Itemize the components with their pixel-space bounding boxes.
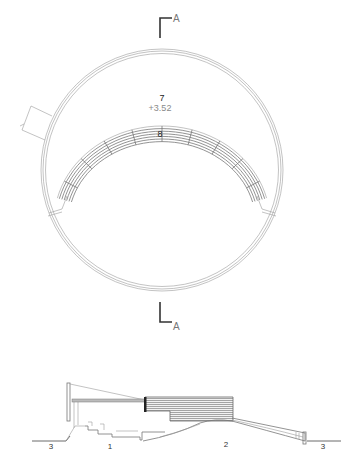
section-marker-bottom: A bbox=[160, 302, 180, 332]
zone-label-3-left: 3 bbox=[49, 442, 54, 451]
canopy-beam bbox=[72, 399, 145, 402]
space-elevation-7: +3.52 bbox=[149, 103, 172, 113]
seating-tier-line bbox=[67, 136, 258, 200]
section-view: 3 1 2 3 bbox=[32, 383, 341, 451]
space-label-8: 8 bbox=[157, 129, 162, 139]
zone-label-2: 2 bbox=[224, 440, 229, 449]
stepped-seating-section bbox=[85, 426, 165, 440]
zone-label-1: 1 bbox=[108, 442, 113, 451]
section-cut-symbol-top bbox=[160, 18, 172, 38]
section-cut-symbol-bottom bbox=[160, 302, 172, 322]
architectural-drawing: A 7 +3.52 8 A bbox=[0, 0, 341, 451]
section-marker-top: A bbox=[160, 13, 180, 38]
space-label-7: 7 bbox=[159, 93, 164, 103]
seating-end-caps bbox=[48, 196, 276, 216]
floor-plan: A 7 +3.52 8 A bbox=[20, 13, 283, 332]
hatched-section-block bbox=[144, 397, 233, 421]
section-letter-top: A bbox=[173, 13, 180, 24]
entrance-marker bbox=[20, 106, 52, 140]
ground-line-left bbox=[32, 436, 70, 441]
left-tower bbox=[66, 383, 145, 441]
section-letter-bottom: A bbox=[173, 321, 180, 332]
hatch-edge bbox=[144, 397, 147, 412]
zone-label-3-right: 3 bbox=[321, 442, 326, 451]
curved-floor bbox=[143, 420, 305, 441]
